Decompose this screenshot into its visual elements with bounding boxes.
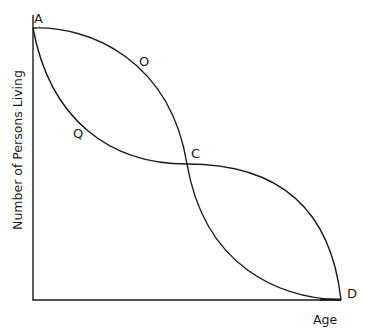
- point-a-label: A: [34, 12, 43, 25]
- point-d-label: D: [347, 287, 357, 300]
- y-axis-label: Number of Persons Living: [10, 70, 25, 230]
- chart-canvas: [0, 0, 365, 336]
- survivorship-chart: A O Q C D Number of Persons Living Age: [0, 0, 365, 336]
- curve-o-label: O: [139, 55, 149, 68]
- curve-q: [33, 28, 341, 300]
- curve-q-label: Q: [73, 127, 83, 140]
- x-axis-label: Age: [313, 312, 337, 327]
- point-c-label: C: [191, 147, 200, 160]
